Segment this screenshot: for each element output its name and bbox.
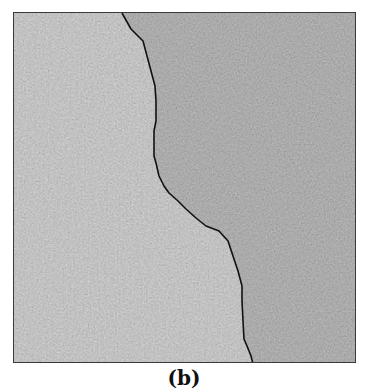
segmentation-image [14, 13, 355, 362]
figure-caption: (b) [0, 366, 368, 390]
segmentation-panel [13, 12, 356, 363]
figure: (b) [0, 0, 368, 391]
